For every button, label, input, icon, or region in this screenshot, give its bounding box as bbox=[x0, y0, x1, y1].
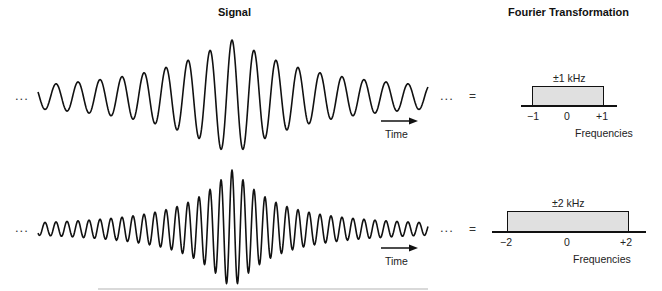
tick-label-pos: +1 bbox=[596, 110, 608, 122]
frequency-axis-1 bbox=[521, 105, 617, 107]
ellipsis-right-1: ... bbox=[440, 88, 454, 103]
equals-sign-2: = bbox=[469, 222, 476, 236]
time-arrow-1 bbox=[381, 118, 418, 125]
tick-label-zero: 0 bbox=[564, 110, 570, 122]
bottom-divider bbox=[98, 288, 428, 290]
time-label-2: Time bbox=[385, 255, 408, 267]
frequencies-label-1: Frequencies bbox=[575, 127, 633, 139]
time-arrow-2 bbox=[381, 245, 418, 252]
tick-label-pos: +2 bbox=[620, 236, 632, 248]
bandwidth-label-1: ±1 kHz bbox=[553, 72, 586, 84]
signal-wave-1khz bbox=[38, 40, 428, 149]
ellipsis-left-2: ... bbox=[15, 220, 29, 235]
spectrum-box-1khz bbox=[532, 86, 604, 106]
spectrum-box-2khz bbox=[507, 211, 629, 232]
tick-label-neg: −1 bbox=[527, 110, 539, 122]
equals-sign-1: = bbox=[469, 89, 476, 103]
time-label-1: Time bbox=[385, 128, 408, 140]
frequency-axis-2 bbox=[492, 231, 646, 233]
bandwidth-label-2: ±2 kHz bbox=[552, 197, 585, 209]
ellipsis-right-2: ... bbox=[440, 220, 454, 235]
tick-label-neg: −2 bbox=[500, 236, 512, 248]
signal-waveforms bbox=[0, 0, 662, 291]
tick-label-zero: 0 bbox=[564, 236, 570, 248]
signal-wave-2khz bbox=[38, 170, 428, 284]
frequencies-label-2: Frequencies bbox=[573, 253, 631, 265]
ellipsis-left-1: ... bbox=[15, 88, 29, 103]
